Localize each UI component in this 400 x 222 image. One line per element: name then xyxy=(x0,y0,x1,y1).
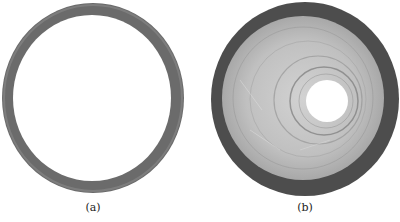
disk-specimen-b xyxy=(211,2,399,196)
center-hole xyxy=(306,80,348,122)
specimen-photo xyxy=(0,0,400,222)
caption-b: (b) xyxy=(290,201,320,214)
ring-specimen-a xyxy=(2,3,184,193)
caption-a: (a) xyxy=(78,201,108,214)
